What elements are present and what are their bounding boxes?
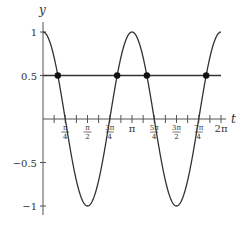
y-tick-label: 1 bbox=[31, 27, 37, 38]
svg-text:4: 4 bbox=[197, 133, 202, 141]
intersection-point bbox=[114, 72, 120, 78]
svg-text:7π: 7π bbox=[194, 124, 203, 132]
x-tick-label: 2π bbox=[215, 123, 228, 134]
svg-text:3π: 3π bbox=[172, 124, 181, 132]
y-tick-labels: 10.5−0.5−1 bbox=[13, 27, 37, 212]
x-tick-label: π bbox=[129, 123, 136, 134]
x-tick-label: π2 bbox=[84, 124, 92, 141]
svg-text:4: 4 bbox=[108, 133, 113, 141]
y-tick-label: −0.5 bbox=[13, 158, 37, 169]
y-axis-label: y bbox=[38, 3, 46, 17]
x-axis-label: t bbox=[231, 112, 236, 126]
svg-text:π: π bbox=[85, 124, 90, 132]
x-tick-label: 3π2 bbox=[172, 124, 181, 141]
svg-text:3π: 3π bbox=[105, 124, 114, 132]
svg-text:5π: 5π bbox=[150, 124, 159, 132]
intersection-point bbox=[55, 72, 61, 78]
y-tick-label: 0.5 bbox=[21, 71, 37, 82]
intersection-point bbox=[144, 72, 150, 78]
svg-text:2: 2 bbox=[85, 133, 89, 141]
x-tick-labels: π4π23π4π5π43π27π42π bbox=[61, 123, 228, 141]
intersection-point bbox=[203, 72, 209, 78]
y-tick-label: −1 bbox=[22, 201, 37, 212]
chart: π4π23π4π5π43π27π42π 10.5−0.5−1 y t bbox=[0, 0, 250, 226]
svg-text:2: 2 bbox=[174, 133, 178, 141]
